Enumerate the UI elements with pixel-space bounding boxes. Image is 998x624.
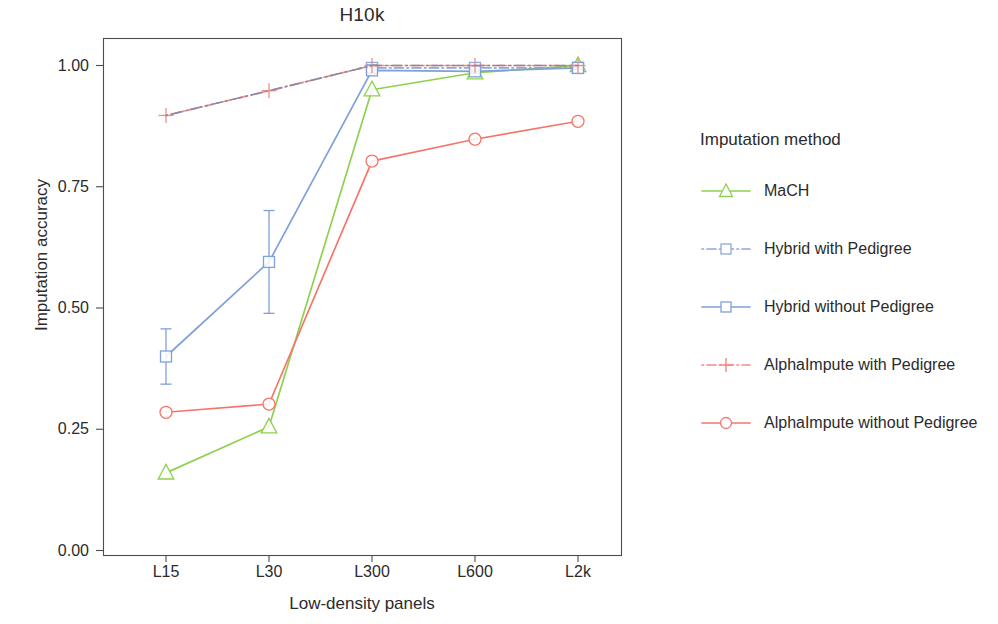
data-point-hybrid-without-pedigree: [161, 351, 172, 362]
legend-label: AlphaImpute without Pedigree: [764, 414, 977, 432]
legend-key-plus-icon: [700, 352, 752, 378]
x-tick-L300: L300: [327, 563, 417, 581]
data-point-alphaimpute-without-pedigree: [366, 155, 378, 167]
legend-key-square-icon: [700, 236, 752, 262]
y-tick-0.00: 0.00: [31, 542, 89, 560]
legend-item-mach[interactable]: MaCH: [700, 176, 990, 206]
x-tick-L2k: L2k: [533, 563, 623, 581]
x-tick-L600: L600: [430, 563, 520, 581]
x-tick-L15: L15: [121, 563, 211, 581]
y-tick-1.00: 1.00: [31, 57, 89, 75]
legend-key-circle-icon: [700, 410, 752, 436]
plot-frame: [104, 39, 622, 556]
data-point-hybrid-without-pedigree: [264, 256, 275, 267]
y-tick-0.75: 0.75: [31, 178, 89, 196]
data-point-alphaimpute-without-pedigree: [160, 406, 172, 418]
data-point-alphaimpute-without-pedigree: [469, 133, 481, 145]
chart-title: H10k: [103, 4, 621, 26]
legend-label: Hybrid with Pedigree: [764, 240, 912, 258]
legend-item-alphaimpute-with-pedigree[interactable]: AlphaImpute with Pedigree: [700, 350, 990, 380]
legend: Imputation method MaCHHybrid with Pedigr…: [700, 130, 990, 466]
legend-item-hybrid-with-pedigree[interactable]: Hybrid with Pedigree: [700, 234, 990, 264]
legend-item-hybrid-without-pedigree[interactable]: Hybrid without Pedigree: [700, 292, 990, 322]
legend-item-alphaimpute-without-pedigree[interactable]: AlphaImpute without Pedigree: [700, 408, 990, 438]
x-axis-label: Low-density panels: [103, 594, 621, 614]
legend-label: AlphaImpute with Pedigree: [764, 356, 955, 374]
legend-label: Hybrid without Pedigree: [764, 298, 934, 316]
legend-label: MaCH: [764, 182, 809, 200]
chart-figure: H10k Imputation accuracy Low-density pan…: [0, 0, 998, 624]
data-point-alphaimpute-without-pedigree: [263, 398, 275, 410]
y-tick-0.50: 0.50: [31, 299, 89, 317]
legend-items: MaCHHybrid with PedigreeHybrid without P…: [700, 176, 990, 438]
data-point-alphaimpute-without-pedigree: [572, 115, 584, 127]
legend-title: Imputation method: [700, 130, 990, 150]
legend-key-triangle-icon: [700, 178, 752, 204]
x-tick-L30: L30: [224, 563, 314, 581]
y-tick-0.25: 0.25: [31, 420, 89, 438]
legend-key-square-icon: [700, 294, 752, 320]
